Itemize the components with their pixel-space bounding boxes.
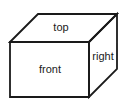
right-face-label: right: [92, 50, 113, 62]
top-face-label: top: [53, 21, 68, 33]
front-face-label: front: [39, 63, 61, 75]
cube-diagram: top front right: [0, 0, 125, 104]
